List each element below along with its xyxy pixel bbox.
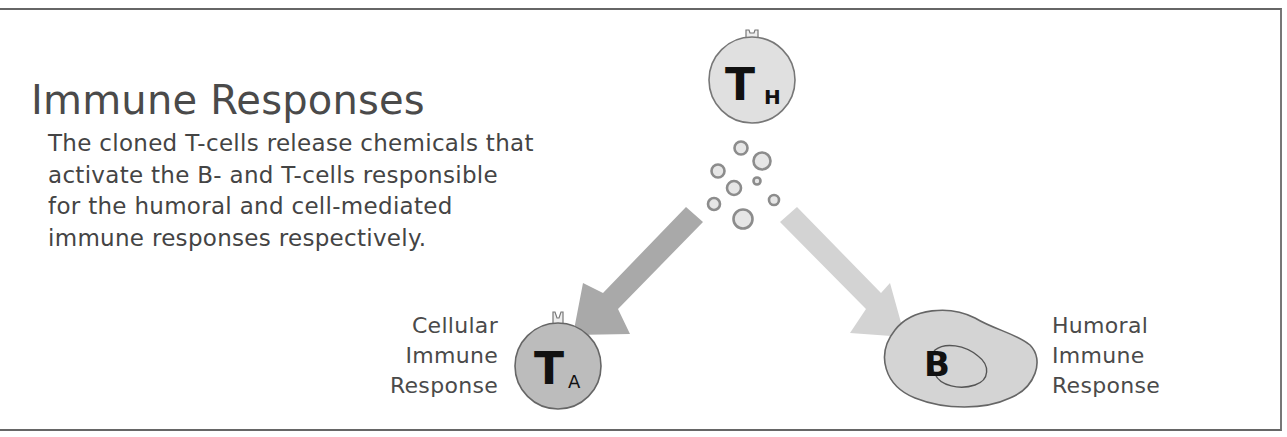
cell-subscript: A bbox=[568, 371, 581, 392]
arrow-to-humoral-icon bbox=[780, 207, 905, 337]
cell-letter: B bbox=[924, 344, 950, 384]
arrow-to-cellular-icon bbox=[573, 207, 703, 335]
cell-letter: T bbox=[725, 59, 755, 110]
helper-t-cell: T H bbox=[709, 30, 795, 123]
chemical-particles bbox=[708, 142, 779, 229]
cell-subscript: H bbox=[764, 85, 781, 109]
immune-diagram: T H T A B bbox=[0, 0, 1287, 437]
cell-letter: T bbox=[534, 343, 564, 394]
b-cell-body-icon bbox=[885, 310, 1037, 407]
b-cell: B bbox=[885, 310, 1037, 407]
